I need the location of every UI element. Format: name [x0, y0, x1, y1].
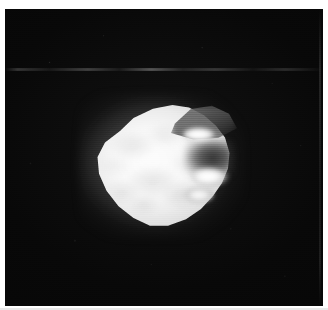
- right-edge-streak: [319, 9, 321, 306]
- small-body-subject: [87, 101, 237, 231]
- scan-dropout-line: [5, 68, 323, 71]
- astronomical-image-frame: [5, 9, 323, 306]
- image-plate: Irregular sunlit small body against blac…: [0, 0, 328, 310]
- sunlit-disc: [87, 101, 237, 231]
